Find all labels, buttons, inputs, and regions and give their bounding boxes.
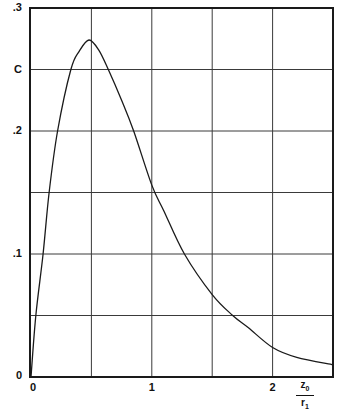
x-axis-label: z0 r1	[296, 379, 314, 412]
y-tick-label: .2	[0, 124, 22, 136]
gridlines	[31, 8, 333, 377]
chart-canvas	[0, 0, 340, 413]
x-tick-label: 2	[263, 381, 283, 393]
x-tick-label: 0	[23, 381, 43, 393]
x-label-denominator-sub: 1	[305, 403, 309, 410]
y-tick-label: 0	[0, 369, 22, 381]
x-tick-label: 1	[142, 381, 162, 393]
y-tick-label: .1	[0, 247, 22, 259]
x-label-numerator-sub: 0	[306, 385, 310, 392]
data-curve	[31, 40, 333, 377]
y-tick-label: .3	[0, 1, 22, 13]
y-tick-label: C	[0, 63, 22, 75]
